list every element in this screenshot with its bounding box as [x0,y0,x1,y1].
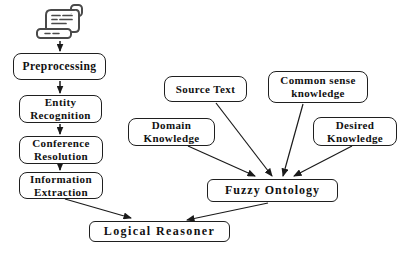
node-label: Desired Knowledge [317,119,393,144]
node-label: Logical Reasoner [104,225,215,239]
node-desired-knowledge: Desired Knowledge [313,117,397,146]
node-label: Entity Recognition [23,96,98,121]
edge-source-to-fuzzy [216,103,272,176]
node-label: Preprocessing [23,60,97,73]
node-conference-resolution: Conference Resolution [19,136,103,164]
node-entity-recognition: Entity Recognition [19,95,102,123]
node-label: Fuzzy Ontology [225,184,320,198]
node-label: Conference Resolution [23,137,99,162]
node-logical-reasoner: Logical Reasoner [89,221,230,242]
node-label: Domain Knowledge [132,119,211,144]
node-source-text: Source Text [164,76,247,102]
node-label: Information Extraction [23,173,99,198]
node-label: Source Text [176,83,236,96]
scroll-document-icon [33,2,85,42]
node-label: Common sense knowledge [272,74,364,99]
node-domain-knowledge: Domain Knowledge [128,118,215,146]
edge-desired-to-fuzzy [294,146,352,176]
edge-common-to-fuzzy [283,104,303,176]
diagram-canvas: Preprocessing Entity Recognition Confere… [0,0,408,258]
edge-information-to-logical [65,199,131,218]
node-information-extraction: Information Extraction [19,172,103,199]
edge-fuzzy-to-logical [187,203,268,220]
edge-domain-to-fuzzy [188,146,255,176]
node-preprocessing: Preprocessing [13,53,106,80]
node-fuzzy-ontology: Fuzzy Ontology [207,179,338,202]
node-common-sense-knowledge: Common sense knowledge [268,71,368,103]
